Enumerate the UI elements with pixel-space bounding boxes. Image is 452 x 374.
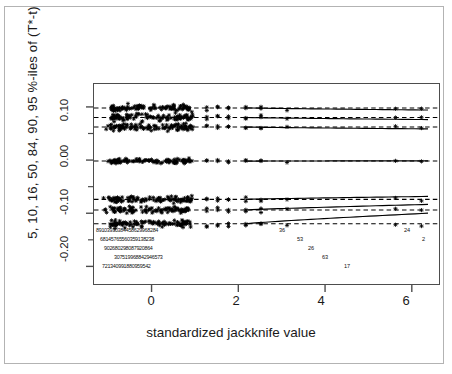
point-id-label: 26 [308,245,314,251]
y-tick-label-3: -0.20 [58,228,70,270]
point-id-label: 24 [404,227,410,233]
point-id-row: 721340991880959542 [102,263,151,269]
figure-outer-border: 8910393038445862996828468145765560359138… [4,6,444,364]
point-id-row: 68145765560359138238 [100,236,154,242]
y-tick-label-2: -0.10 [58,181,70,223]
point-id-row: 89103930384458629968284 [96,227,158,233]
x-tick-label-3: 6 [392,293,420,308]
y-tick-label-0: 0.10 [58,89,70,131]
x-tick-label-0: 0 [137,293,165,308]
x-tick-label-1: 2 [222,293,250,308]
y-axis-title: 5, 10, 16, 50, 84, 90, 95 %-iles of (T*-… [25,0,40,258]
x-tick-label-2: 4 [307,293,335,308]
point-id-row: 307519968842946573 [114,254,163,260]
x-axis-title: standardized jackknife value [5,325,452,340]
point-id-label: 53 [297,236,303,242]
point-id-label: 17 [344,263,350,269]
point-id-label: 2 [422,236,425,242]
point-id-row: 902680298087920864 [104,245,153,251]
plot-panel: 8910393038445862996828468145765560359138… [93,83,440,285]
y-tick-label-1: 0.00 [58,135,70,177]
point-id-label: 36 [279,227,285,233]
point-id-label: 63 [322,254,328,260]
